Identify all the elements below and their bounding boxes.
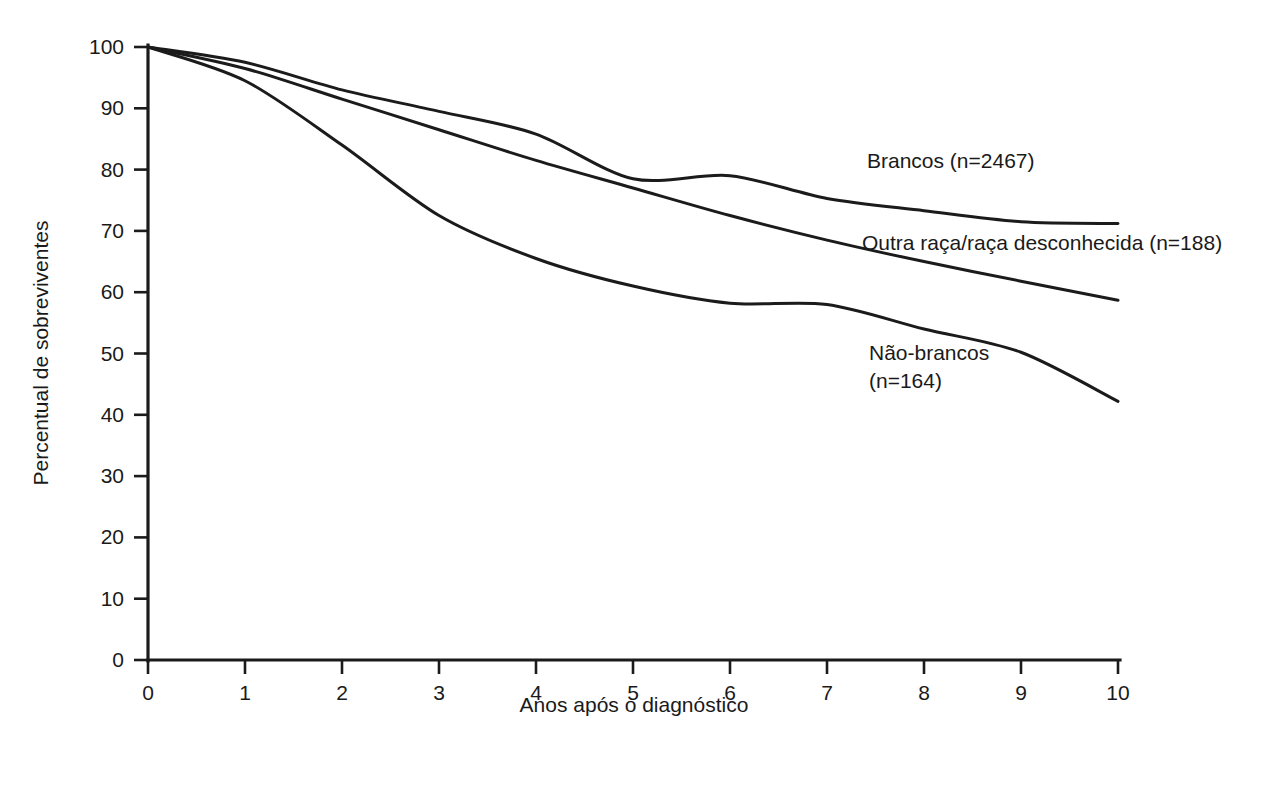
x-tick-label: 2	[336, 681, 348, 704]
series-line-1	[148, 47, 1118, 300]
y-tick-label: 50	[101, 342, 124, 365]
y-axis-tick-labels: 0102030405060708090100	[89, 35, 124, 671]
y-axis-ticks	[134, 47, 148, 660]
y-tick-label: 40	[101, 403, 124, 426]
y-tick-label: 10	[101, 587, 124, 610]
x-tick-label: 8	[918, 681, 930, 704]
x-axis-title: Anos após o diagnóstico	[520, 693, 749, 716]
x-tick-label: 10	[1106, 681, 1129, 704]
series-annotation-0: Brancos (n=2467)	[867, 149, 1035, 172]
y-axis-title: Percentual de sobreviventes	[29, 221, 52, 486]
x-axis: 012345678910 Anos após o diagnóstico	[142, 660, 1130, 716]
y-tick-label: 30	[101, 464, 124, 487]
series-annotation-3: (n=164)	[869, 369, 942, 392]
y-tick-label: 80	[101, 158, 124, 181]
x-tick-label: 9	[1015, 681, 1027, 704]
y-tick-label: 90	[101, 96, 124, 119]
series-annotation-2: Não-brancos	[869, 341, 989, 364]
y-tick-label: 100	[89, 35, 124, 58]
survival-curve-chart: 0102030405060708090100 Percentual de sob…	[0, 0, 1281, 785]
y-tick-label: 0	[112, 648, 124, 671]
series-annotation-1: Outra raça/raça desconhecida (n=188)	[862, 231, 1222, 254]
y-tick-label: 20	[101, 525, 124, 548]
y-tick-label: 60	[101, 280, 124, 303]
x-tick-label: 1	[239, 681, 251, 704]
x-tick-label: 3	[433, 681, 445, 704]
chart-canvas: 0102030405060708090100 Percentual de sob…	[0, 0, 1281, 785]
y-tick-label: 70	[101, 219, 124, 242]
x-axis-ticks	[148, 660, 1118, 674]
y-axis: 0102030405060708090100 Percentual de sob…	[29, 35, 148, 671]
x-tick-label: 7	[821, 681, 833, 704]
series-line-0	[148, 47, 1118, 224]
x-tick-label: 0	[142, 681, 154, 704]
series-annotations: Brancos (n=2467)Outra raça/raça desconhe…	[862, 149, 1222, 392]
